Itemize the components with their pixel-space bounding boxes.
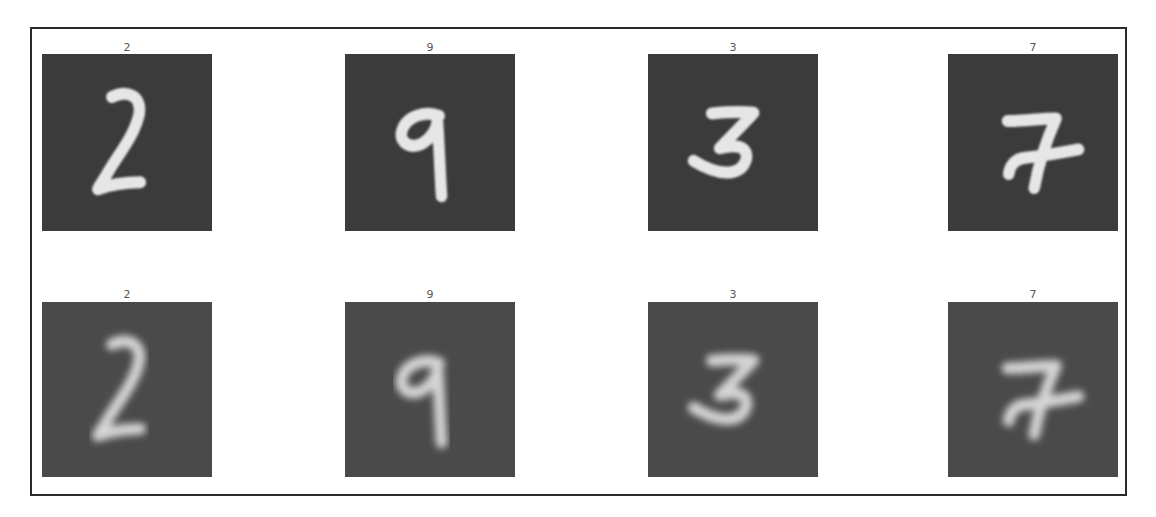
digit-label: 7 — [948, 289, 1118, 301]
digit-image — [42, 302, 212, 477]
digit-image — [345, 54, 515, 231]
digit-label: 7 — [948, 42, 1118, 54]
digit-image — [42, 54, 212, 231]
digit-label: 9 — [345, 42, 515, 54]
digit-image — [648, 54, 818, 231]
digit-image — [948, 302, 1118, 477]
digit-label: 3 — [648, 42, 818, 54]
digit-label: 3 — [648, 289, 818, 301]
digit-label: 9 — [345, 289, 515, 301]
digit-label: 2 — [42, 42, 212, 54]
digit-image — [648, 302, 818, 477]
digit-label: 2 — [42, 289, 212, 301]
digit-image — [345, 302, 515, 477]
digit-image — [948, 54, 1118, 231]
